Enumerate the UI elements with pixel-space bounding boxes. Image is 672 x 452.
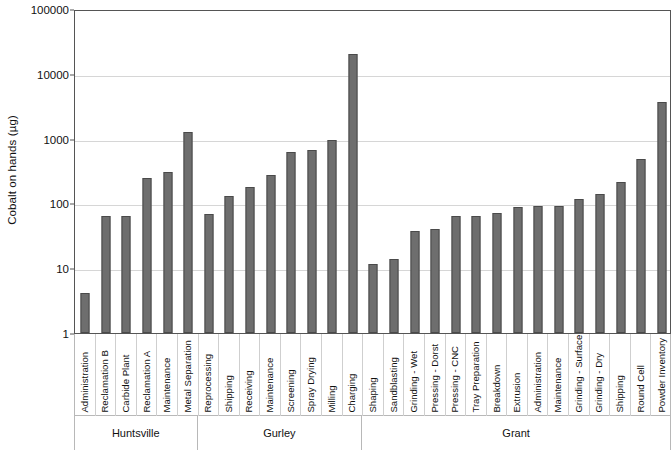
bar[interactable] — [266, 175, 275, 333]
y-axis-tick-label: 100 — [10, 198, 74, 210]
category-label: Shaping — [368, 378, 378, 413]
bar[interactable] — [410, 231, 419, 333]
category-label-cell: Reclamation A — [137, 334, 158, 416]
category-label: Spray Drying — [306, 358, 316, 413]
bar[interactable] — [81, 293, 90, 333]
bar[interactable] — [369, 264, 378, 333]
bar-slot — [157, 11, 178, 333]
category-label: Tray Preparation — [471, 342, 481, 413]
bar-slot — [178, 11, 199, 333]
y-axis-tick-label: 10 — [10, 263, 74, 275]
category-label: Round Cell — [636, 366, 646, 413]
category-label: Maintenance — [265, 358, 275, 413]
bar-slot — [116, 11, 137, 333]
bar-slot — [507, 11, 528, 333]
bar-slot — [425, 11, 446, 333]
bar-slot — [466, 11, 487, 333]
bar-slot — [404, 11, 425, 333]
category-label-cell: Round Cell — [631, 334, 652, 416]
bar-slot — [569, 11, 590, 333]
bar-slot — [96, 11, 117, 333]
bar[interactable] — [554, 206, 563, 333]
bar[interactable] — [534, 206, 543, 333]
bar[interactable] — [451, 216, 460, 333]
category-label: Breakdown — [491, 365, 501, 413]
category-label: Metal Separation — [183, 340, 193, 413]
category-label-cell: Administration — [528, 334, 549, 416]
category-label-cell: Sandblasting — [384, 334, 405, 416]
bar[interactable] — [225, 196, 234, 333]
group-axis-labels: HuntsvilleGurleyGrant — [74, 416, 671, 450]
category-label: Extrusion — [512, 373, 522, 413]
category-label-cell: Extrusion — [507, 334, 528, 416]
category-label: Administration — [533, 352, 543, 413]
bar-slot — [199, 11, 220, 333]
bar-slot — [363, 11, 384, 333]
bar[interactable] — [513, 207, 522, 333]
y-axis-tick-label: 1000 — [10, 134, 74, 146]
bar[interactable] — [307, 150, 316, 333]
bar[interactable] — [616, 182, 625, 333]
bar[interactable] — [184, 132, 193, 333]
category-label-cell: Reprocessing — [199, 334, 220, 416]
bar-slot — [322, 11, 343, 333]
bar-slot — [631, 11, 652, 333]
bar[interactable] — [143, 178, 152, 333]
category-label: Pressing - CNC — [450, 346, 460, 413]
bar[interactable] — [101, 216, 110, 333]
y-axis-tick-label: 10000 — [10, 69, 74, 81]
category-axis-labels: AdministrationReclamation BCarbide Plant… — [74, 334, 671, 416]
category-label-cell: Carbide Plant — [116, 334, 137, 416]
bar-slot — [75, 11, 96, 333]
bar-slot — [446, 11, 467, 333]
category-label: Receiving — [244, 371, 254, 413]
bar-slot — [281, 11, 302, 333]
category-label: Administration — [80, 352, 90, 413]
bar-slot — [260, 11, 281, 333]
category-label-cell: Shipping — [219, 334, 240, 416]
category-label-cell: Maintenance — [157, 334, 178, 416]
bar-slot — [651, 11, 672, 333]
category-label-cell: Administration — [75, 334, 96, 416]
group-label: Huntsville — [74, 416, 198, 450]
category-label: Screening — [286, 370, 296, 413]
bar[interactable] — [204, 214, 213, 333]
bar-slot — [528, 11, 549, 333]
bar[interactable] — [287, 152, 296, 333]
category-label: Maintenance — [553, 358, 563, 413]
bar[interactable] — [431, 229, 440, 333]
category-label-cell: Maintenance — [548, 334, 569, 416]
bar[interactable] — [472, 216, 481, 333]
category-label-cell: Reclamation B — [96, 334, 117, 416]
bar-slot — [384, 11, 405, 333]
category-label: Grinding - Wet — [409, 351, 419, 413]
bar[interactable] — [328, 140, 337, 333]
category-label-cell: Grinding - Surface — [569, 334, 590, 416]
category-label-cell: Spray Drying — [301, 334, 322, 416]
plot-area — [74, 10, 671, 334]
category-label: Reclamation A — [141, 351, 151, 413]
group-label: Grant — [362, 416, 671, 450]
bar[interactable] — [575, 199, 584, 333]
bar[interactable] — [245, 187, 254, 333]
category-label-cell: Metal Separation — [178, 334, 199, 416]
bars-layer — [75, 11, 670, 333]
bar-slot — [137, 11, 158, 333]
bar[interactable] — [595, 194, 604, 333]
category-label: Powder Inventory — [657, 338, 667, 413]
bar[interactable] — [390, 259, 399, 333]
bar[interactable] — [637, 159, 646, 333]
category-label: Grinding - Surface — [574, 335, 584, 413]
category-label: Grinding - Dry — [594, 353, 604, 413]
bar[interactable] — [657, 102, 666, 333]
bar[interactable] — [163, 172, 172, 333]
category-label: Reprocessing — [203, 354, 213, 413]
category-label-cell: Pressing - CNC — [446, 334, 467, 416]
bar[interactable] — [348, 54, 357, 333]
category-label: Reclamation B — [100, 351, 110, 413]
category-label: Charging — [347, 374, 357, 413]
y-axis-tick-label: 100000 — [10, 4, 74, 16]
bar[interactable] — [493, 213, 502, 333]
cobalt-exposure-bar-chart: Cobalt on hands (µg) 1000001000010001001… — [0, 0, 672, 452]
bar[interactable] — [122, 216, 131, 333]
